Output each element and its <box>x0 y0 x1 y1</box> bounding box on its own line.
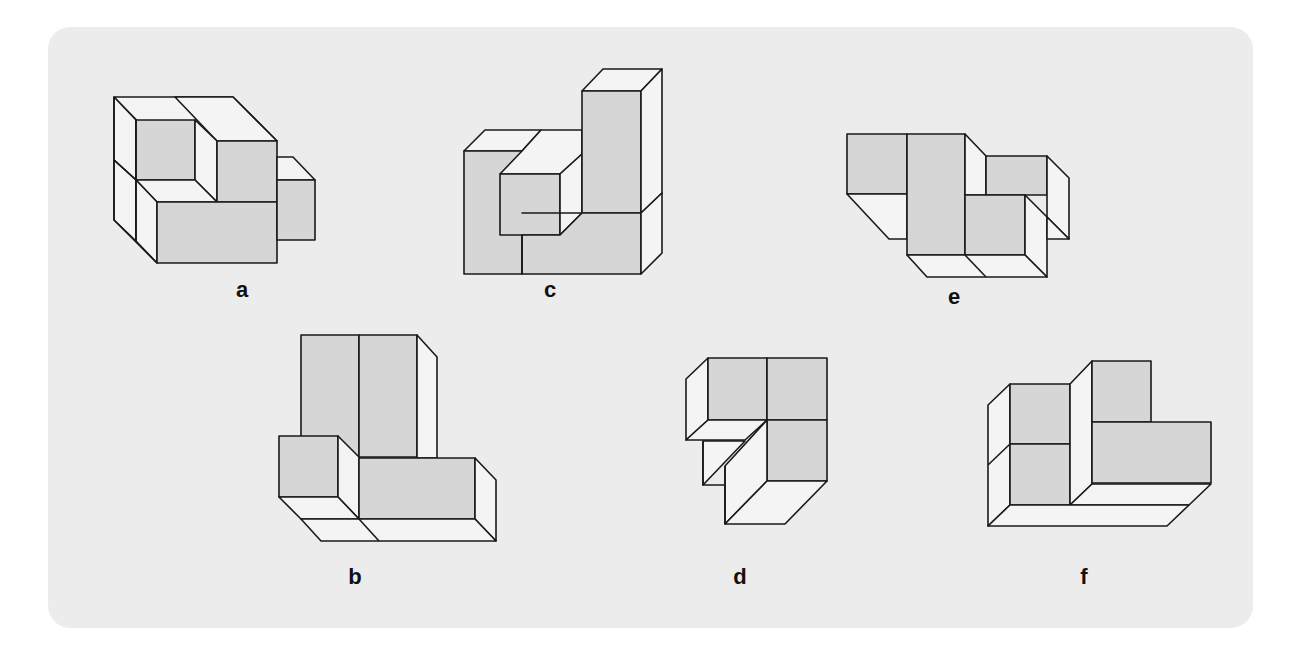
block-face <box>1010 384 1070 444</box>
figure-f <box>988 361 1211 526</box>
block-face <box>641 69 662 213</box>
block-face <box>1092 422 1211 483</box>
block-face <box>965 195 1025 255</box>
block-face <box>157 202 277 263</box>
block-face <box>277 180 315 240</box>
isometric-block-figures <box>0 0 1311 656</box>
block-face <box>847 134 907 194</box>
figure-label-b: b <box>348 566 361 588</box>
figure-label-a: a <box>236 279 248 301</box>
block-face <box>907 255 1047 277</box>
block-face <box>907 134 965 255</box>
block-face <box>582 91 641 213</box>
block-face <box>359 335 417 457</box>
block-face <box>965 134 986 195</box>
block-face <box>277 157 315 180</box>
figure-c <box>464 69 662 274</box>
block-face <box>217 141 277 202</box>
block-face <box>1070 484 1211 505</box>
figure-label-f: f <box>1080 566 1087 588</box>
block-face <box>500 174 560 235</box>
figure-a <box>114 97 315 263</box>
block-face <box>136 120 195 180</box>
figure-e <box>847 134 1069 277</box>
block-face <box>767 358 827 420</box>
block-face <box>1010 444 1070 505</box>
block-face <box>1070 361 1092 505</box>
block-face <box>708 358 767 420</box>
figure-label-c: c <box>544 279 556 301</box>
figure-label-d: d <box>733 566 746 588</box>
block-face <box>279 436 338 497</box>
block-face <box>986 156 1047 195</box>
block-face <box>988 505 1189 526</box>
block-face <box>847 194 907 239</box>
block-face <box>767 420 827 481</box>
block-face <box>359 458 475 519</box>
block-face <box>417 335 437 458</box>
figure-d <box>686 358 827 524</box>
figure-label-e: e <box>948 286 960 308</box>
block-face <box>301 519 496 541</box>
block-face <box>1092 361 1151 422</box>
figure-b <box>279 335 496 541</box>
